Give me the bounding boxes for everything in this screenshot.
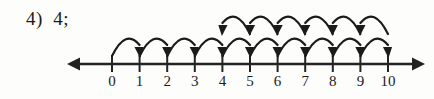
tick-label: 0 bbox=[108, 73, 116, 89]
tick-label: 7 bbox=[301, 73, 309, 89]
tick-label: 8 bbox=[329, 73, 337, 89]
tick-label: 6 bbox=[274, 73, 282, 89]
forward-hop-arcs-group bbox=[112, 39, 392, 58]
tick-label: 3 bbox=[191, 73, 199, 89]
tick-label: 5 bbox=[246, 73, 254, 89]
hop-arrowhead bbox=[218, 25, 227, 36]
axis-left-arrowhead bbox=[67, 58, 80, 71]
worksheet-answer-figure: 4) 4; 012345678910 bbox=[0, 0, 434, 99]
tick-label: 10 bbox=[381, 73, 396, 89]
axis-right-arrowhead bbox=[412, 58, 425, 71]
number-line-axis bbox=[67, 58, 425, 71]
tick-label: 2 bbox=[163, 73, 171, 89]
tick-labels-group: 012345678910 bbox=[108, 73, 395, 89]
number-line-diagram: 012345678910 bbox=[0, 0, 434, 99]
tick-label: 4 bbox=[219, 73, 227, 89]
tick-label: 9 bbox=[357, 73, 365, 89]
backward-hop-arcs-group bbox=[218, 17, 388, 36]
tick-label: 1 bbox=[136, 73, 144, 89]
